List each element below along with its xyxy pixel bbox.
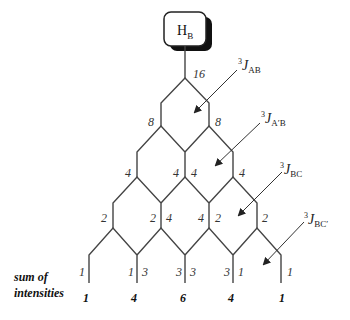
svg-text:4: 4	[173, 166, 179, 180]
tree-lines	[89, 46, 281, 283]
svg-text:4: 4	[239, 166, 245, 180]
coupling-label-ab: 3JAB	[238, 57, 261, 75]
svg-text:4: 4	[191, 166, 197, 180]
coupling-label-bc: 3JBC	[280, 161, 302, 179]
svg-text:8: 8	[148, 115, 154, 129]
splitting-tree-diagram: HB 3JAB 3JA′B 3JBC 3JBC′ 16 8 8 4 4 4	[0, 0, 350, 320]
svg-text:1: 1	[128, 265, 134, 279]
svg-text:1: 1	[79, 265, 85, 279]
svg-text:3: 3	[141, 265, 148, 279]
svg-text:4: 4	[227, 291, 234, 305]
svg-text:4: 4	[198, 211, 204, 225]
arrow-icon	[216, 123, 260, 165]
svg-text:4: 4	[125, 166, 131, 180]
coupling-label-bc-prime: 3JBC′	[304, 211, 328, 229]
svg-text:6: 6	[180, 291, 186, 305]
svg-text:1: 1	[279, 291, 285, 305]
svg-text:3: 3	[223, 265, 230, 279]
sum-values: 1 4 6 4 1	[83, 291, 285, 305]
intensity-labels: 16 8 8 4 4 4 4 2 2 4 4 2 2 1 1 3 3 3 3 1…	[79, 67, 293, 279]
svg-text:1: 1	[83, 291, 89, 305]
svg-text:16: 16	[193, 67, 205, 81]
svg-text:8: 8	[215, 115, 221, 129]
svg-text:1: 1	[287, 265, 293, 279]
svg-text:1: 1	[238, 265, 244, 279]
svg-text:2: 2	[150, 211, 156, 225]
svg-text:2: 2	[215, 211, 221, 225]
svg-text:4: 4	[130, 291, 137, 305]
nucleus-label: H	[177, 23, 187, 38]
svg-text:2: 2	[101, 211, 107, 225]
svg-text:4: 4	[166, 211, 172, 225]
svg-text:3: 3	[189, 265, 196, 279]
sum-label-line2: intensities	[14, 286, 64, 300]
arrow-icon	[239, 172, 282, 215]
svg-text:3: 3	[175, 265, 182, 279]
nucleus-box: HB	[164, 12, 212, 51]
coupling-label-a-prime-b: 3JA′B	[261, 110, 286, 128]
svg-text:2: 2	[262, 211, 268, 225]
sum-label-line1: sum of	[13, 270, 49, 284]
